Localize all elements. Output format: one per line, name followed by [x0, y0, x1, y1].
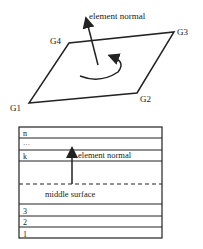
layer-normal-label: element normal: [78, 150, 132, 160]
layer-label-2: 2: [23, 218, 27, 227]
node-label-g3: G3: [177, 27, 188, 37]
layer-label-3: 3: [23, 207, 27, 216]
layer-label-k: k: [23, 152, 27, 161]
quad-element: element normal G1 G2 G3 G4: [10, 11, 188, 113]
layer-label-n: n: [23, 129, 27, 138]
node-label-g4: G4: [50, 36, 61, 46]
stack-outline: [19, 127, 162, 238]
node-label-g2: G2: [140, 94, 151, 104]
rotation-arrow-icon: [80, 57, 121, 79]
layer-label-1: 1: [23, 230, 27, 239]
middle-surface-label: middle surface: [45, 189, 95, 199]
node-label-g1: G1: [10, 103, 21, 113]
layer-label-ellipsis: ···: [23, 141, 30, 149]
layer-stack: n ··· k 3 2 1 element normal middle surf…: [19, 127, 162, 239]
top-normal-label: element normal: [89, 11, 146, 21]
shell-element-diagram: element normal G1 G2 G3 G4 n ··· k 3 2 1…: [0, 0, 203, 249]
element-normal-arrow: [87, 22, 98, 65]
